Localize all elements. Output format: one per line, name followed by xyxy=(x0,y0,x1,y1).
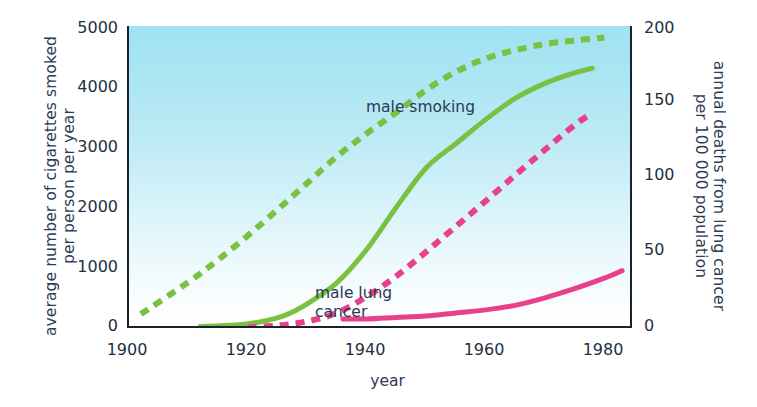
y-axis-right-title-line1: annual deaths from lung cancer xyxy=(710,61,728,311)
annotation-male-smoking-line1: male smoking xyxy=(366,98,475,116)
y-axis-right-title: annual deaths from lung cancer per 100 0… xyxy=(692,36,728,336)
chart-canvas xyxy=(129,26,632,328)
annotation-male-lung-cancer: male lung cancer xyxy=(315,284,392,322)
y-left-tick-4000: 4000 xyxy=(52,77,118,96)
y-axis-right-title-line2: per 100 000 population xyxy=(692,36,710,336)
y-right-tick-100: 100 xyxy=(644,165,704,184)
x-axis-title: year xyxy=(0,372,757,390)
x-axis-title-text: year xyxy=(370,372,405,390)
plot-area: male smoking male lung cancer female smo… xyxy=(127,26,632,328)
series-line-female-smoking xyxy=(248,113,593,327)
y-right-tick-200: 200 xyxy=(644,18,704,37)
y-left-tick-0: 0 xyxy=(52,316,118,335)
chart-figure: average number of cigarettes smoked per … xyxy=(0,0,757,407)
series-line-male-smoking xyxy=(141,37,604,314)
y-right-tick-150: 150 xyxy=(644,90,704,109)
y-left-tick-2000: 2000 xyxy=(52,197,118,216)
annotation-male-lung-cancer-line1: male lung xyxy=(315,284,392,302)
x-tick-1920: 1920 xyxy=(211,340,281,359)
y-left-tick-1000: 1000 xyxy=(52,257,118,276)
annotation-male-lung-cancer-line2: cancer xyxy=(315,303,392,322)
x-tick-1980: 1980 xyxy=(568,340,638,359)
y-left-tick-3000: 3000 xyxy=(52,137,118,156)
x-tick-1960: 1960 xyxy=(449,340,519,359)
y-right-tick-50: 50 xyxy=(644,240,704,259)
x-tick-1900: 1900 xyxy=(92,340,162,359)
y-right-tick-0: 0 xyxy=(644,316,704,335)
x-tick-1940: 1940 xyxy=(330,340,400,359)
annotation-male-smoking: male smoking xyxy=(366,98,475,117)
y-left-tick-5000: 5000 xyxy=(52,18,118,37)
